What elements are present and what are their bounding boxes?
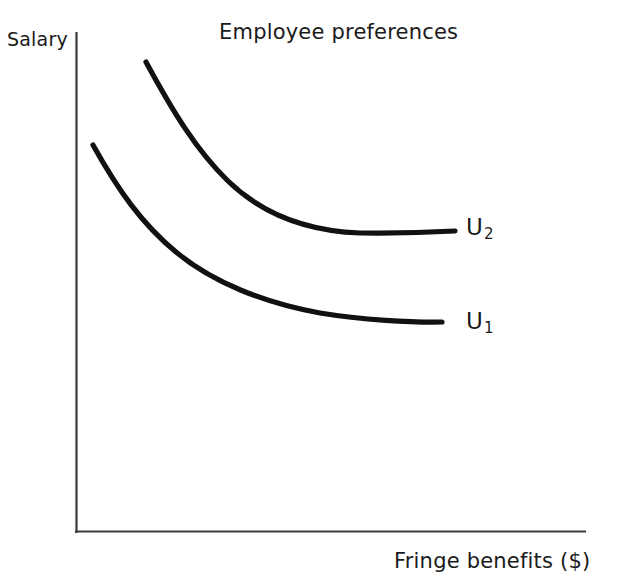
curve-label-u1: U1 [466, 310, 493, 333]
curve-label-u1-letter: U [466, 308, 483, 334]
curve-label-u2-subscript: 2 [484, 225, 494, 243]
curve-label-u1-subscript: 1 [484, 319, 494, 337]
x-axis-label: Fringe benefits ($) [394, 551, 590, 572]
indifference-curve-figure: Employee preferences Salary Fringe benef… [0, 0, 617, 586]
curve-label-u2: U2 [466, 216, 493, 239]
y-axis-label: Salary [7, 30, 68, 49]
chart-title: Employee preferences [219, 22, 458, 43]
curve-label-u2-letter: U [466, 214, 483, 240]
indifference-curve-u2 [146, 62, 455, 233]
chart-plot-area [0, 0, 617, 586]
